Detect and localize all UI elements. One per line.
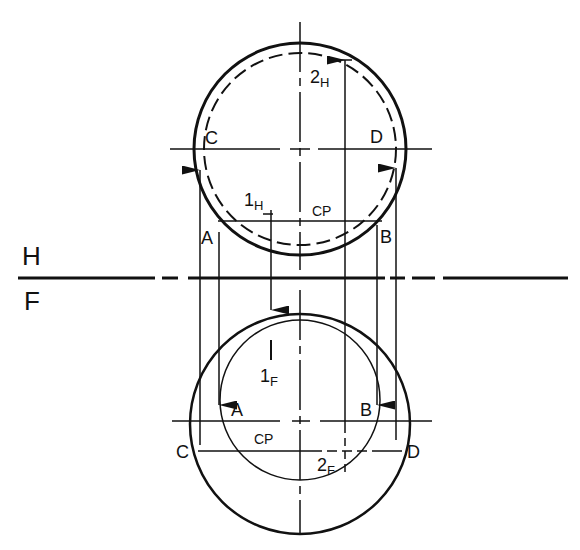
- top-label-c: C: [205, 129, 218, 147]
- top-label-1h: 1H: [244, 191, 263, 212]
- label-f-plane: F: [24, 288, 40, 314]
- top-label-d: D: [370, 128, 383, 146]
- front-label-b: B: [360, 401, 372, 419]
- front-label-cp: CP: [254, 432, 273, 446]
- front-view: [172, 290, 432, 535]
- top-label-cp: CP: [312, 204, 331, 218]
- front-label-a: A: [231, 401, 243, 419]
- projection-lines: [200, 60, 396, 445]
- top-label-b: B: [380, 228, 392, 246]
- front-label-d: D: [407, 443, 420, 461]
- front-label-c: C: [176, 443, 189, 461]
- label-h-plane: H: [22, 243, 41, 269]
- front-label-2f: 2F: [317, 456, 335, 477]
- top-label-a: A: [201, 229, 213, 247]
- projection-drawing: [0, 0, 580, 550]
- front-label-1f: 1F: [260, 367, 278, 388]
- top-label-2h: 2H: [310, 68, 329, 89]
